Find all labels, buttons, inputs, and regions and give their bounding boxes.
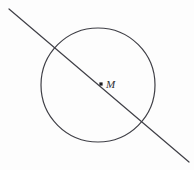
center-point-M	[99, 82, 102, 85]
center-label-M: M	[105, 78, 116, 90]
geometry-diagram: M	[0, 0, 194, 170]
geometry-canvas: M	[0, 0, 194, 170]
